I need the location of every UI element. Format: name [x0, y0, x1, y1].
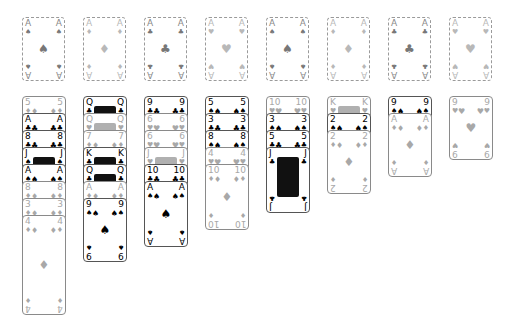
- rank-label: 5: [208, 98, 214, 107]
- diamonds-icon: ♦: [330, 29, 336, 36]
- rank-label: 10: [174, 166, 185, 175]
- suit-icon: ♦: [328, 155, 370, 169]
- rank-label: 2: [362, 132, 368, 141]
- foundation-slot-diamonds[interactable]: AAAA♦♦♦♦♦: [327, 17, 370, 81]
- rank-label: 3: [240, 115, 246, 124]
- rank-label: 3: [269, 115, 275, 124]
- suit-icon: ♦: [391, 125, 397, 132]
- spades-icon: ♠: [267, 42, 308, 56]
- suit-pips: ♠♠: [153, 193, 179, 201]
- suit-pips: ♦♦: [397, 125, 423, 133]
- rank-label: 8: [240, 132, 246, 141]
- rank-label: K: [330, 98, 336, 107]
- clubs-icon: ♣: [147, 29, 153, 36]
- clubs-icon: ♣: [147, 62, 153, 69]
- rank-label: A: [391, 115, 397, 124]
- rank-label: A: [422, 70, 428, 79]
- playing-card[interactable]: AA♦♦♦♦AA♦♦♦: [388, 113, 432, 177]
- rank-label: 6: [147, 115, 153, 124]
- rank-label: J: [147, 149, 150, 158]
- rank-label: A: [178, 70, 184, 79]
- rank-label: 9: [452, 98, 458, 107]
- rank-label: A: [25, 19, 31, 28]
- rank-label: A: [361, 19, 367, 28]
- suit-icon: ♦: [206, 190, 248, 204]
- hearts-icon: ♥: [452, 29, 458, 36]
- diamonds-icon: ♦: [117, 62, 123, 69]
- rank-label: K: [86, 149, 92, 158]
- suit-icon: ♦: [330, 142, 336, 149]
- suit-icon: ♦: [214, 176, 221, 184]
- playing-card[interactable]: 22♦♦♦♦22♦♦♦: [327, 130, 371, 194]
- suit-icon: ♦: [240, 176, 246, 183]
- playing-card[interactable]: 99♥♥♥♥99♥♥♥: [449, 96, 493, 160]
- rank-label: A: [300, 19, 306, 28]
- foundation-slot-hearts[interactable]: AAAA♥♥♥♥♥: [449, 17, 492, 81]
- rank-label: 2: [330, 132, 336, 141]
- rank-label: J: [269, 202, 272, 211]
- face-card-art: [277, 157, 299, 197]
- spades-icon: ♠: [269, 29, 275, 36]
- playing-card[interactable]: 99♠♠♠♠99♠♠♠: [83, 198, 127, 262]
- rank-label: A: [391, 166, 397, 175]
- rank-label: 9: [484, 149, 490, 158]
- rank-label: A: [179, 183, 185, 192]
- hearts-icon: ♥: [239, 29, 245, 36]
- foundation-slot-diamonds[interactable]: AAAA♦♦♦♦♦: [83, 17, 126, 81]
- playing-card[interactable]: JJ♣♣JJ♣♣: [266, 147, 310, 213]
- rank-label: 8: [25, 183, 31, 192]
- suit-icon: ♦: [57, 296, 63, 303]
- suit-icon: ♠: [86, 243, 92, 250]
- rank-label: 6: [147, 132, 153, 141]
- playing-card[interactable]: 44♦♦♦♦44♦♦♦: [22, 215, 66, 315]
- rank-label: 5: [269, 132, 275, 141]
- rank-label: 5: [57, 98, 63, 107]
- spade-icon: ♠: [153, 193, 160, 201]
- rank-label: A: [300, 70, 306, 79]
- clubs-icon: ♣: [178, 62, 184, 69]
- rank-label: A: [208, 19, 214, 28]
- suit-icon: ♠: [147, 228, 153, 235]
- suit-icon: ♠: [145, 207, 187, 221]
- playing-card[interactable]: 1010♦♦♦♦1010♦♦♦: [205, 164, 249, 230]
- rank-label: Q: [86, 115, 93, 124]
- foundation-slot-clubs[interactable]: AAAA♣♣♣♣♣: [144, 17, 187, 81]
- rank-label: 5: [25, 98, 31, 107]
- hearts-icon: ♥: [208, 62, 214, 69]
- hearts-icon: ♥: [239, 62, 245, 69]
- rank-label: A: [391, 19, 397, 28]
- rank-label: A: [57, 166, 63, 175]
- rank-label: J: [182, 149, 185, 158]
- suit-icon: ♠: [84, 223, 126, 237]
- foundation-slot-spades[interactable]: AAAA♠♠♠♠♠: [266, 17, 309, 81]
- rank-label: 3: [208, 115, 214, 124]
- rank-label: A: [208, 70, 214, 79]
- rank-label: J: [304, 202, 307, 211]
- rank-label: A: [25, 166, 31, 175]
- rank-label: A: [117, 19, 123, 28]
- suit-icon: ♣: [269, 194, 275, 201]
- foundation-slot-clubs[interactable]: AAAA♣♣♣♣♣: [388, 17, 431, 81]
- suit-icon: ♥: [452, 141, 458, 148]
- rank-label: A: [86, 19, 92, 28]
- rank-label: 3: [57, 200, 63, 209]
- foundation-slot-spades[interactable]: AAAA♠♠♠♠♠: [22, 17, 65, 81]
- rank-label: 10: [235, 166, 246, 175]
- diamonds-icon: ♦: [361, 29, 367, 36]
- suit-icon: ♣: [269, 159, 275, 166]
- rank-label: A: [483, 19, 489, 28]
- rank-label: A: [25, 70, 31, 79]
- foundation-slot-hearts[interactable]: AAAA♥♥♥♥♥: [205, 17, 248, 81]
- rank-label: 9: [86, 251, 92, 260]
- suit-pips: ♦♦: [336, 142, 362, 150]
- diamonds-icon: ♦: [117, 29, 123, 36]
- rank-label: K: [362, 98, 368, 107]
- rank-label: 9: [484, 98, 490, 107]
- spade-icon: ♠: [92, 210, 99, 218]
- suit-icon: ♦: [31, 227, 38, 235]
- suit-icon: ♦: [362, 142, 368, 149]
- playing-card[interactable]: AA♠♠♠♠AA♠♠♠: [144, 181, 188, 247]
- rank-label: A: [86, 70, 92, 79]
- rank-label: A: [56, 70, 62, 79]
- suit-icon: ♥: [484, 108, 490, 115]
